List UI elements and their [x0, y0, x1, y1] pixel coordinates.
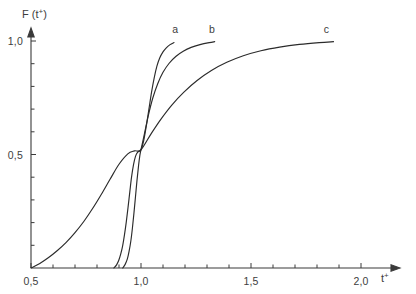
y-axis-tick-labels: 0,51,0 [8, 35, 23, 161]
curve-label-b: b [209, 23, 215, 35]
curve-label-c: c [324, 23, 329, 35]
curve-label-group: abc [172, 23, 329, 35]
x-axis-tick-labels: 0,51,01,52,0 [23, 275, 368, 287]
x-tick-label: 2,0 [353, 275, 368, 287]
x-tick-label: 1,0 [133, 275, 148, 287]
x-axis-ticks [31, 263, 361, 268]
curve-label-a: a [172, 23, 178, 35]
axes-group [28, 28, 400, 271]
curve-c [31, 42, 334, 268]
x-tick-label: 0,5 [23, 275, 38, 287]
cdf-plot: 0,51,01,52,0 0,51,0 abc F (t+) t+ [0, 0, 416, 294]
curve-group [31, 42, 334, 268]
y-axis-title: F (t+) [22, 7, 47, 20]
y-axis-ticks [31, 41, 36, 245]
x-tick-label: 1,5 [243, 275, 258, 287]
y-tick-label: 0,5 [8, 149, 23, 161]
curve-a [114, 43, 174, 268]
x-axis-title: t+ [381, 271, 389, 284]
x-axis-arrowhead [391, 265, 400, 271]
y-axis-arrowhead [28, 28, 34, 37]
y-tick-label: 1,0 [8, 35, 23, 47]
chart-figure: 0,51,01,52,0 0,51,0 abc F (t+) t+ [0, 0, 416, 294]
